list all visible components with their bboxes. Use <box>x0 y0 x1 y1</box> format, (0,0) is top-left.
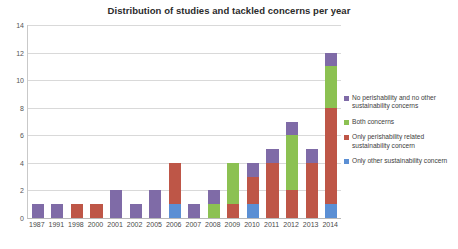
bar-segment[interactable] <box>247 177 259 205</box>
bar-segment[interactable] <box>110 190 122 218</box>
chart-title: Distribution of studies and tackled conc… <box>0 5 458 16</box>
bar-segment[interactable] <box>325 66 337 107</box>
legend-item[interactable]: Only other sustainability concern <box>344 157 456 165</box>
legend-swatch-icon <box>344 96 349 101</box>
x-axis-tick-label: 2010 <box>244 221 260 228</box>
bar-group[interactable] <box>306 149 318 218</box>
legend-swatch-icon <box>344 135 349 140</box>
bar-segment[interactable] <box>286 122 298 136</box>
bar-group[interactable] <box>188 204 200 218</box>
y-axis-tick-label: 12 <box>16 49 24 56</box>
bar-segment[interactable] <box>286 135 298 190</box>
bar-group[interactable] <box>286 122 298 218</box>
bar-segment[interactable] <box>306 163 318 218</box>
y-axis-tick-label: 8 <box>20 104 24 111</box>
bar-segment[interactable] <box>286 190 298 218</box>
legend-label: Only perishability related sustainabilit… <box>352 133 456 150</box>
bars-layer <box>28 25 341 218</box>
x-axis-tick-label: 2008 <box>205 221 221 228</box>
bar-segment[interactable] <box>227 204 239 218</box>
x-axis-tick-label: 2002 <box>127 221 143 228</box>
bar-segment[interactable] <box>169 163 181 204</box>
bar-segment[interactable] <box>325 53 337 67</box>
legend-swatch-icon <box>344 120 349 125</box>
x-axis-tick-label: 2011 <box>264 221 279 228</box>
bar-segment[interactable] <box>149 190 161 218</box>
y-axis-tick-label: 2 <box>20 187 24 194</box>
bar-group[interactable] <box>51 204 63 218</box>
bar-group[interactable] <box>90 204 102 218</box>
bar-segment[interactable] <box>90 204 102 218</box>
bar-segment[interactable] <box>266 163 278 218</box>
y-axis-tick-label: 10 <box>16 77 24 84</box>
x-axis-labels: 1987199119982000200120022005200620072008… <box>27 221 340 235</box>
bar-segment[interactable] <box>306 149 318 163</box>
chart-container: Distribution of studies and tackled conc… <box>0 0 458 249</box>
chart-legend: No perishability and no other sustainabi… <box>344 94 456 172</box>
bar-segment[interactable] <box>71 204 83 218</box>
plot-area: 02468101214 <box>27 25 341 219</box>
bar-segment[interactable] <box>247 204 259 218</box>
y-axis-tick-label: 6 <box>20 132 24 139</box>
bar-group[interactable] <box>247 163 259 218</box>
x-axis-tick-label: 1998 <box>68 221 84 228</box>
bar-group[interactable] <box>325 53 337 218</box>
y-axis-tick-label: 4 <box>20 159 24 166</box>
bar-segment[interactable] <box>32 204 44 218</box>
bar-group[interactable] <box>149 190 161 218</box>
bar-group[interactable] <box>71 204 83 218</box>
legend-item[interactable]: Only perishability related sustainabilit… <box>344 133 456 150</box>
bar-segment[interactable] <box>247 163 259 177</box>
x-axis-tick-label: 2005 <box>146 221 162 228</box>
legend-item[interactable]: No perishability and no other sustainabi… <box>344 94 456 111</box>
bar-segment[interactable] <box>208 190 220 204</box>
y-axis-tick-label: 0 <box>20 215 24 222</box>
bar-segment[interactable] <box>325 108 337 205</box>
y-axis-tick-label: 14 <box>16 22 24 29</box>
bar-group[interactable] <box>110 190 122 218</box>
bar-segment[interactable] <box>208 204 220 218</box>
legend-label: No perishability and no other sustainabi… <box>352 94 456 111</box>
bar-segment[interactable] <box>227 163 239 204</box>
bar-segment[interactable] <box>188 204 200 218</box>
legend-label: Both concerns <box>352 118 394 126</box>
bar-segment[interactable] <box>130 204 142 218</box>
bar-segment[interactable] <box>169 204 181 218</box>
x-axis-tick-label: 2007 <box>185 221 201 228</box>
bar-group[interactable] <box>130 204 142 218</box>
legend-label: Only other sustainability concern <box>352 157 447 165</box>
x-axis-tick-label: 2014 <box>322 221 338 228</box>
bar-group[interactable] <box>169 163 181 218</box>
bar-group[interactable] <box>32 204 44 218</box>
x-axis-tick-label: 2006 <box>166 221 182 228</box>
legend-swatch-icon <box>344 159 349 164</box>
x-axis-tick-label: 2012 <box>283 221 299 228</box>
bar-group[interactable] <box>227 163 239 218</box>
x-axis-tick-label: 1991 <box>49 221 65 228</box>
bar-group[interactable] <box>266 149 278 218</box>
bar-segment[interactable] <box>51 204 63 218</box>
x-axis-tick-label: 2013 <box>303 221 319 228</box>
x-axis-tick-label: 2009 <box>225 221 241 228</box>
x-axis-tick-label: 2001 <box>107 221 123 228</box>
x-axis-tick-label: 2000 <box>88 221 104 228</box>
bar-segment[interactable] <box>325 204 337 218</box>
bar-group[interactable] <box>208 190 220 218</box>
legend-item[interactable]: Both concerns <box>344 118 456 126</box>
bar-segment[interactable] <box>266 149 278 163</box>
x-axis-tick-label: 1987 <box>29 221 45 228</box>
